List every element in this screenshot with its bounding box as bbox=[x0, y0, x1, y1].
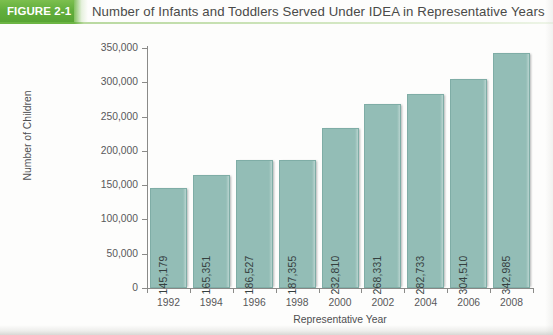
figure-page: FIGURE 2-1 Number of Infants and Toddler… bbox=[0, 0, 553, 335]
x-axis-tick bbox=[190, 288, 191, 293]
y-axis-title: Number of Children bbox=[22, 61, 33, 211]
bar-highlight bbox=[397, 105, 400, 287]
bar-value-label: 165,351 bbox=[201, 256, 212, 295]
x-axis-tick bbox=[233, 288, 234, 293]
x-axis-tick bbox=[147, 288, 148, 293]
bar-value-label: 282,733 bbox=[415, 256, 426, 295]
header-divider bbox=[0, 22, 553, 24]
figure-title: Number of Infants and Toddlers Served Un… bbox=[92, 0, 545, 22]
bar: 165,351 bbox=[193, 175, 230, 288]
y-axis-tick-label: 150,000 bbox=[76, 179, 138, 190]
y-axis-tick bbox=[142, 185, 147, 186]
bar-highlight bbox=[183, 189, 186, 287]
bar-value-label: 342,985 bbox=[501, 256, 512, 295]
bar: 187,355 bbox=[279, 160, 316, 288]
y-axis-tick bbox=[142, 117, 147, 118]
x-axis-tick bbox=[447, 288, 448, 293]
x-axis-tick bbox=[490, 288, 491, 293]
page-edge-shadow-right bbox=[545, 0, 553, 335]
y-axis-tick-label: 50,000 bbox=[76, 248, 138, 259]
bar: 342,985 bbox=[493, 53, 530, 288]
x-axis-tick bbox=[404, 288, 405, 293]
bar-highlight bbox=[440, 95, 443, 287]
x-axis-title: Representative Year bbox=[147, 314, 533, 325]
bar-value-label: 145,179 bbox=[158, 256, 169, 295]
bar: 232,810 bbox=[322, 128, 359, 288]
bar-highlight bbox=[269, 161, 272, 287]
bar-highlight bbox=[355, 129, 358, 287]
x-axis-tick bbox=[533, 288, 534, 293]
y-axis-tick bbox=[142, 151, 147, 152]
bar-highlight bbox=[312, 161, 315, 287]
figure-header: FIGURE 2-1 Number of Infants and Toddler… bbox=[0, 0, 553, 24]
y-axis-tick bbox=[142, 219, 147, 220]
y-axis-tick-label: 0 bbox=[76, 282, 138, 293]
y-axis-tick-label: 350,000 bbox=[76, 42, 138, 53]
y-axis-tick bbox=[142, 82, 147, 83]
bar-highlight bbox=[226, 176, 229, 287]
bar: 282,733 bbox=[407, 94, 444, 288]
y-axis-tick-label: 200,000 bbox=[76, 145, 138, 156]
bar: 145,179 bbox=[150, 188, 187, 288]
figure-number-tag: FIGURE 2-1 bbox=[0, 0, 74, 22]
bar: 304,510 bbox=[450, 79, 487, 288]
bar-value-label: 232,810 bbox=[330, 256, 341, 295]
figure-tag-gradient bbox=[74, 0, 88, 22]
x-axis-tick bbox=[276, 288, 277, 293]
bar-value-label: 187,355 bbox=[287, 256, 298, 295]
x-axis-tick-label: 2008 bbox=[486, 297, 538, 308]
bar: 268,331 bbox=[364, 104, 401, 288]
y-axis-tick bbox=[142, 48, 147, 49]
bar-highlight bbox=[483, 80, 486, 287]
bar-chart: Number of Children 050,000100,000150,000… bbox=[0, 26, 553, 335]
y-axis-tick-label: 300,000 bbox=[76, 76, 138, 87]
bar-highlight bbox=[526, 54, 529, 287]
x-axis-tick bbox=[361, 288, 362, 293]
page-edge-shadow-bottom bbox=[0, 325, 553, 335]
bar-value-label: 304,510 bbox=[458, 256, 469, 295]
y-axis-tick-label: 250,000 bbox=[76, 111, 138, 122]
bar: 186,527 bbox=[236, 160, 273, 288]
y-axis-tick-label: 100,000 bbox=[76, 213, 138, 224]
bar-value-label: 186,527 bbox=[244, 256, 255, 295]
y-axis-tick bbox=[142, 254, 147, 255]
x-axis-tick bbox=[319, 288, 320, 293]
bar-value-label: 268,331 bbox=[372, 256, 383, 295]
y-axis-line bbox=[147, 46, 148, 290]
